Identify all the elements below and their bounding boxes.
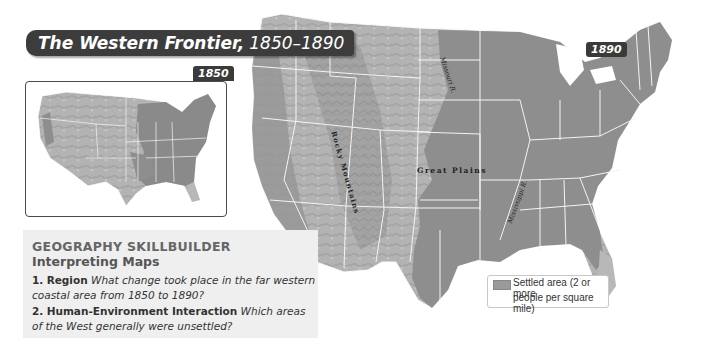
skillbuilder-heading: GEOGRAPHY SKILLBUILDER [32,239,231,254]
title-years: 1850–1890 [249,33,344,53]
question-1: 1. Region What change took place in the … [32,273,317,303]
title-main: The Western Frontier, [38,33,244,53]
map-1850 [26,82,226,216]
inset-map-1850 [25,81,227,217]
question-number: 1. [32,274,43,286]
question-label: Human-Environment Interaction [47,305,238,317]
legend-swatch-settled [493,280,511,290]
settled-region-east [412,22,672,308]
skillbuilder-subheading: Interpreting Maps [32,254,159,269]
year-badge-1890: 1890 [586,42,627,57]
question-label: Region [47,274,88,286]
question-number: 2. [32,305,43,317]
map-legend: Settled area (2 or more people per squar… [487,275,609,308]
year-badge-1850: 1850 [193,66,234,81]
map-title: The Western Frontier, 1850–1890 [26,30,354,56]
skillbuilder-panel: GEOGRAPHY SKILLBUILDER Interpreting Maps… [23,230,318,338]
legend-label-line2: people per square mile) [513,292,608,314]
question-2: 2. Human-Environment Interaction Which a… [32,304,317,334]
label-great-plains: Great Plains [417,166,487,175]
